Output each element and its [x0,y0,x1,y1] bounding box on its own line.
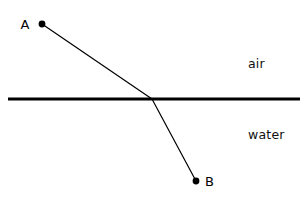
point-b-label: B [205,174,214,189]
refraction-diagram: A B air water [0,0,306,200]
medium-label-water: water [248,127,285,142]
refraction-diagram-canvas: A B air water [0,0,306,200]
medium-label-air: air [248,56,266,71]
point-b-dot [193,178,200,185]
point-a-dot [39,21,46,28]
point-a-label: A [21,17,30,32]
